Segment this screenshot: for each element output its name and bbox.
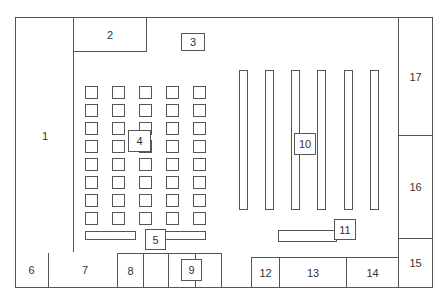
marker-11: 11 bbox=[334, 219, 356, 240]
marker-9: 9 bbox=[181, 259, 202, 281]
room-6-divider bbox=[48, 253, 49, 288]
room-2: 2 bbox=[73, 17, 147, 52]
seat bbox=[112, 140, 125, 153]
floor-plan: 1 2 3 4 5 10 11 6 7 8 9 12 13 14 17 16 1… bbox=[0, 0, 448, 300]
counter-right bbox=[165, 231, 206, 240]
seat bbox=[139, 104, 152, 117]
seat bbox=[193, 176, 206, 189]
seat bbox=[193, 158, 206, 171]
seat bbox=[139, 86, 152, 99]
seat bbox=[85, 140, 98, 153]
seat bbox=[112, 104, 125, 117]
seat bbox=[112, 212, 125, 225]
seat bbox=[112, 194, 125, 207]
room-7-label: 7 bbox=[70, 262, 100, 278]
seat bbox=[166, 104, 179, 117]
seat bbox=[193, 194, 206, 207]
seat bbox=[85, 122, 98, 135]
room-8: 8 bbox=[117, 253, 144, 288]
seat bbox=[85, 158, 98, 171]
seat bbox=[166, 176, 179, 189]
room-8b bbox=[143, 253, 169, 288]
seat bbox=[85, 194, 98, 207]
marker-4: 4 bbox=[128, 130, 151, 152]
seat bbox=[166, 86, 179, 99]
room-13: 13 bbox=[279, 257, 347, 288]
seat bbox=[166, 122, 179, 135]
seat bbox=[112, 176, 125, 189]
marker-3: 3 bbox=[181, 33, 205, 51]
seat bbox=[193, 212, 206, 225]
seat bbox=[85, 212, 98, 225]
seat bbox=[193, 104, 206, 117]
room-17: 17 bbox=[398, 17, 433, 136]
shelf bbox=[344, 70, 353, 210]
room-16: 16 bbox=[398, 135, 433, 239]
room-1-label: 1 bbox=[30, 128, 60, 144]
seat bbox=[139, 176, 152, 189]
marker-10: 10 bbox=[294, 133, 316, 155]
counter-left bbox=[85, 231, 136, 240]
seat bbox=[139, 158, 152, 171]
shelf bbox=[370, 70, 379, 210]
seat bbox=[139, 194, 152, 207]
room-14: 14 bbox=[346, 257, 399, 288]
counter-11 bbox=[278, 230, 337, 242]
room-1-divider bbox=[73, 17, 74, 252]
room-15: 15 bbox=[398, 238, 433, 288]
seat bbox=[85, 104, 98, 117]
seat bbox=[166, 158, 179, 171]
room-6-label: 6 bbox=[15, 262, 48, 278]
seat bbox=[139, 212, 152, 225]
seat bbox=[112, 122, 125, 135]
marker-5: 5 bbox=[145, 229, 166, 250]
seat bbox=[193, 122, 206, 135]
seat bbox=[85, 176, 98, 189]
seat bbox=[166, 194, 179, 207]
seat bbox=[166, 140, 179, 153]
shelf bbox=[265, 70, 274, 210]
seat bbox=[112, 86, 125, 99]
seat bbox=[193, 86, 206, 99]
shelf bbox=[317, 70, 326, 210]
room-12: 12 bbox=[251, 257, 280, 288]
seat bbox=[166, 212, 179, 225]
seat bbox=[112, 158, 125, 171]
seat bbox=[85, 86, 98, 99]
shelf bbox=[239, 70, 248, 210]
seat bbox=[193, 140, 206, 153]
